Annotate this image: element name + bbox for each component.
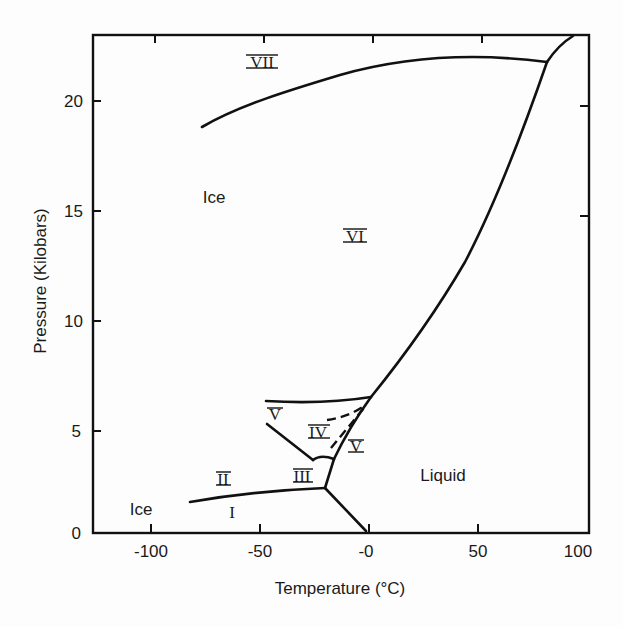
y-tick-label: 20 bbox=[64, 92, 83, 111]
curve-ice5-ice6 bbox=[266, 397, 371, 402]
curve-ice1-liquid bbox=[325, 488, 366, 531]
curve-ice6-liquid bbox=[371, 62, 547, 397]
x-tick-label: 50 bbox=[469, 542, 488, 561]
label-ice3: III bbox=[294, 467, 311, 486]
phase-boundaries bbox=[190, 36, 573, 531]
label-ice-top: Ice bbox=[203, 188, 226, 207]
label-ice6: VI bbox=[346, 227, 364, 246]
phase-diagram-chart: -100 -50 -0 50 100 0 5 10 15 20 Temperat… bbox=[0, 0, 623, 627]
label-ice2: II bbox=[217, 470, 229, 489]
y-axis-label: Pressure (Kilobars) bbox=[31, 208, 50, 354]
label-ice-bottom: Ice bbox=[130, 500, 153, 519]
plot-frame bbox=[93, 35, 589, 533]
label-ice1: I bbox=[229, 503, 235, 522]
label-liquid: Liquid bbox=[420, 466, 465, 485]
curve-ice3-liquid bbox=[325, 459, 334, 488]
region-labels: VII Ice VI V IV V III II I Ice Liquid bbox=[130, 53, 466, 522]
label-ice4: IV bbox=[309, 423, 328, 442]
x-tick-label: -0 bbox=[358, 542, 373, 561]
curve-ice7-liquid bbox=[547, 36, 573, 62]
curve-ice2-ice5 bbox=[267, 424, 313, 460]
curve-ice1-ice2 bbox=[190, 488, 325, 502]
x-axis-label: Temperature (°C) bbox=[275, 579, 406, 598]
x-tick-label: -50 bbox=[248, 542, 273, 561]
curve-ice2-ice3 bbox=[313, 457, 334, 460]
y-tick-label: 0 bbox=[72, 524, 81, 543]
y-tick-label: 15 bbox=[64, 202, 83, 221]
label-ice7: VII bbox=[250, 53, 274, 72]
x-tick-label: 100 bbox=[564, 542, 592, 561]
y-tick-label: 5 bbox=[72, 422, 81, 441]
y-tick-label: 10 bbox=[64, 312, 83, 331]
x-tick-label: -100 bbox=[134, 542, 168, 561]
